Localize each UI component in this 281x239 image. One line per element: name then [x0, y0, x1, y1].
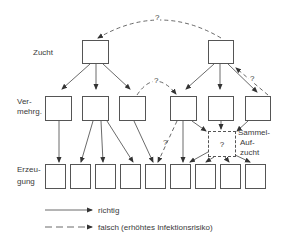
erzeugung-box-2 — [70, 164, 91, 189]
arrow-z2-v4 — [186, 64, 214, 89]
zucht-box-2 — [208, 40, 234, 64]
question-mark-middle-arc: ? — [153, 76, 159, 85]
vermehrung-box-3 — [119, 96, 146, 121]
erzeugung-box-8 — [220, 164, 241, 189]
sammel-label-1: Sammel- — [238, 128, 270, 137]
vermehrung-box-4 — [170, 96, 197, 121]
vermehrung-box-2 — [82, 96, 109, 121]
legend-solid-label: richtig — [98, 206, 119, 215]
row-label-zucht: Zucht — [33, 48, 53, 57]
dashed-arc-z2-z1 — [98, 20, 221, 38]
vermehrung-box-1 — [45, 96, 72, 121]
row-label-vermehrung-1: Ver- — [17, 97, 32, 106]
arrow-z1-v3 — [103, 64, 130, 89]
row-label-erzeugung-2: gung — [17, 177, 35, 186]
row-label-erzeugung-1: Erzeu- — [17, 165, 41, 174]
arrow-v2-e4 — [107, 121, 133, 162]
legend-dashed-label: falsch (erhöhtes Infektionsrisiko) — [98, 223, 213, 232]
erzeugung-box-9 — [245, 164, 266, 189]
arrow-sammel-e6 — [190, 152, 208, 162]
erzeugung-box-5 — [145, 164, 166, 189]
erzeugung-box-7 — [195, 164, 216, 189]
sammel-label-3: zucht — [240, 148, 259, 157]
vermehrung-box-6 — [245, 96, 271, 121]
erzeugung-box-4 — [120, 164, 141, 189]
arrow-sammel-e8 — [225, 157, 229, 162]
sammel-aufzucht-box: ? — [208, 131, 236, 157]
row-label-vermehrung-2: mehrg. — [17, 107, 42, 116]
dashed-arrow-v4-e5 — [158, 121, 177, 162]
arrow-v2-e2 — [81, 121, 93, 162]
sammel-question-mark: ? — [220, 140, 224, 149]
question-mark-right-return: ? — [249, 74, 255, 83]
erzeugung-box-3 — [95, 164, 116, 189]
erzeugung-box-6 — [170, 164, 191, 189]
arrow-v2-e3 — [101, 121, 103, 162]
arrow-z1-v1 — [62, 64, 90, 89]
zucht-box-1 — [82, 40, 109, 64]
arrow-v4-sammel — [192, 121, 206, 131]
arrow-sammel-e7 — [206, 157, 214, 162]
question-mark-dashed-erzeugung: ? — [163, 138, 167, 147]
sammel-label-2: Auf- — [240, 138, 255, 147]
arrow-v3-e5 — [134, 121, 153, 162]
vermehrung-box-5 — [208, 96, 234, 121]
question-mark-top-arc: ? — [154, 13, 160, 22]
erzeugung-box-1 — [45, 164, 66, 189]
